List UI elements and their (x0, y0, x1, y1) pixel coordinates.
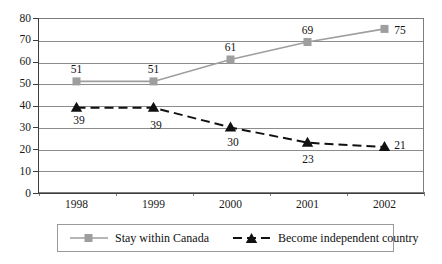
data-label: 30 (213, 136, 253, 148)
data-label: 61 (211, 41, 251, 53)
legend-label: Become independent country (278, 231, 419, 246)
legend-key-triangle-icon (233, 231, 271, 245)
line-chart: 80 70 60 50 40 30 20 10 0 1998 1999 2000… (0, 0, 442, 264)
data-label: 51 (57, 63, 97, 75)
data-label: 39 (59, 114, 99, 126)
data-label: 51 (134, 63, 174, 75)
legend: Stay within Canada Become independent co… (57, 224, 394, 252)
data-label: 23 (288, 153, 328, 165)
legend-key-square-icon (70, 231, 108, 245)
data-label: 21 (380, 139, 420, 151)
legend-label: Stay within Canada (115, 231, 209, 246)
legend-item-stay-within-canada[interactable]: Stay within Canada (70, 225, 209, 251)
series-line-stay-within-canada (77, 29, 385, 82)
series-markers-stay-within-canada (73, 25, 389, 86)
legend-item-become-independent-country[interactable]: Become independent country (233, 225, 419, 251)
data-label: 69 (288, 24, 328, 36)
data-label: 75 (380, 24, 420, 36)
data-label: 39 (136, 119, 176, 131)
